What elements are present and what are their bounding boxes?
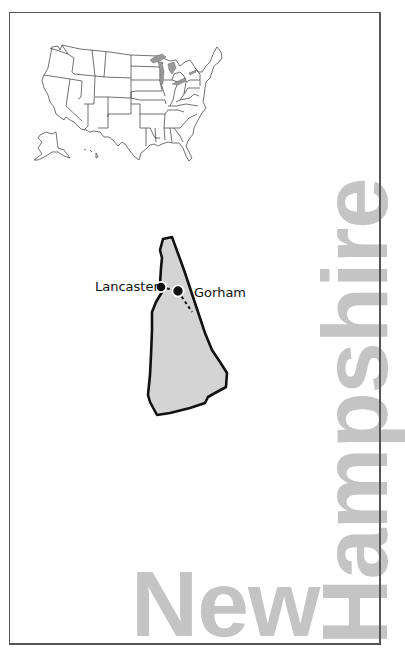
new-hampshire-outline xyxy=(148,237,227,415)
place-label-lancaster: Lancaster xyxy=(95,280,159,293)
gorham-marker-icon[interactable] xyxy=(172,285,183,296)
state-map xyxy=(0,0,405,651)
place-label-gorham: Gorham xyxy=(194,286,246,299)
